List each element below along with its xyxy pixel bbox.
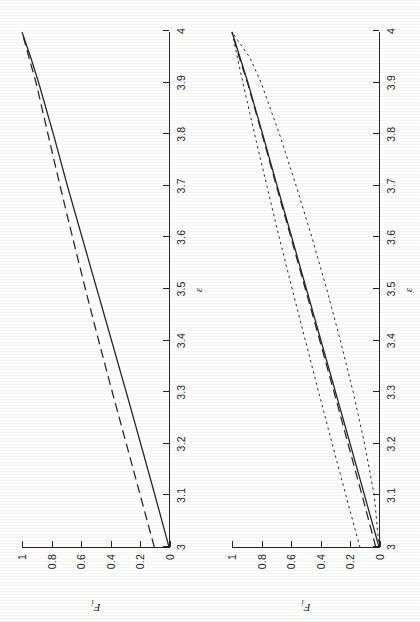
plot-curves-left [22, 32, 169, 547]
x-tick-label: 3.4 [385, 333, 397, 348]
y-tick-mark [350, 541, 351, 547]
x-tick-mark [163, 82, 169, 83]
y-tick-label: 0.4 [315, 554, 327, 569]
x-tick-mark [373, 340, 379, 341]
y-tick-label: 0 [164, 554, 176, 560]
y-tick-mark [81, 541, 82, 547]
x-tick-mark [373, 546, 379, 547]
x-tick-mark [163, 546, 169, 547]
x-tick-mark [163, 236, 169, 237]
panel-right: 33.13.23.33.43.53.63.73.83.9400.20.40.60… [210, 0, 420, 622]
x-tick-label: 3.2 [385, 436, 397, 451]
y-axis-title-left: Fi [92, 598, 101, 613]
plot-area-left: 33.13.23.33.43.53.63.73.83.9400.20.40.60… [22, 32, 170, 548]
x-tick-label: 3.8 [385, 127, 397, 142]
y-tick-label: 0.8 [256, 554, 268, 569]
x-tick-label: 3.5 [175, 281, 187, 296]
y-tick-mark [321, 541, 322, 547]
x-tick-mark [373, 133, 379, 134]
x-tick-label: 3 [175, 544, 187, 550]
x-tick-mark [163, 288, 169, 289]
y-tick-mark [262, 541, 263, 547]
x-tick-mark [373, 236, 379, 237]
x-tick-label: 3 [385, 544, 397, 550]
x-tick-label: 3.6 [175, 230, 187, 245]
y-tick-mark [22, 541, 23, 547]
y-tick-label: 0.2 [344, 554, 356, 569]
y-tick-label: 0.4 [105, 554, 117, 569]
x-tick-label: 3.3 [385, 385, 397, 400]
y-tick-label: 0.2 [134, 554, 146, 569]
curve-dashed [232, 32, 376, 547]
y-tick-mark [380, 541, 381, 547]
x-tick-mark [373, 443, 379, 444]
y-axis-title-sub-right: i [302, 598, 304, 607]
x-tick-mark [163, 340, 169, 341]
y-tick-label: 1 [226, 554, 238, 560]
y-tick-mark [52, 541, 53, 547]
x-axis-title-left: ε [192, 32, 204, 548]
curve-solid [22, 32, 169, 547]
x-tick-label: 3.4 [175, 333, 187, 348]
x-tick-label: 4 [385, 28, 397, 34]
x-tick-label: 3.9 [175, 75, 187, 90]
curve-dotted-upper [232, 32, 360, 547]
y-tick-label: 1 [16, 554, 28, 560]
x-tick-mark [163, 185, 169, 186]
x-tick-label: 3.1 [175, 488, 187, 503]
x-tick-mark [373, 82, 379, 83]
y-tick-label: 0 [374, 554, 386, 560]
plot-area-right: 33.13.23.33.43.53.63.73.83.9400.20.40.60… [232, 32, 380, 548]
y-tick-mark [291, 541, 292, 547]
x-tick-label: 3.2 [175, 436, 187, 451]
x-tick-label: 3.8 [175, 127, 187, 142]
x-tick-mark [163, 30, 169, 31]
x-tick-mark [163, 443, 169, 444]
x-tick-mark [163, 391, 169, 392]
y-axis-title-right: Fi [302, 598, 311, 613]
x-tick-label: 3.3 [175, 385, 187, 400]
x-tick-mark [373, 30, 379, 31]
y-tick-mark [140, 541, 141, 547]
y-tick-label: 0.8 [46, 554, 58, 569]
y-axis-title-sub-left: i [92, 598, 94, 607]
y-axis-title-base-right: F [304, 602, 311, 614]
x-tick-label: 3.7 [175, 178, 187, 193]
x-tick-mark [373, 494, 379, 495]
x-tick-label: 3.7 [385, 178, 397, 193]
x-axis-title-right: ε [402, 32, 414, 548]
x-tick-mark [163, 133, 169, 134]
x-tick-label: 3.6 [385, 230, 397, 245]
curve-dashed [22, 32, 154, 547]
x-tick-mark [373, 185, 379, 186]
y-tick-mark [170, 541, 171, 547]
y-axis-title-base-left: F [94, 602, 101, 614]
y-tick-mark [232, 541, 233, 547]
x-tick-label: 3.9 [385, 75, 397, 90]
panel-left: 33.13.23.33.43.53.63.73.83.9400.20.40.60… [0, 0, 210, 622]
x-tick-mark [373, 391, 379, 392]
y-tick-label: 0.6 [285, 554, 297, 569]
plot-curves-right [232, 32, 379, 547]
figure-root: 33.13.23.33.43.53.63.73.83.9400.20.40.60… [0, 0, 420, 622]
y-tick-label: 0.6 [75, 554, 87, 569]
x-tick-mark [373, 288, 379, 289]
x-tick-mark [163, 494, 169, 495]
x-tick-label: 4 [175, 28, 187, 34]
x-tick-label: 3.1 [385, 488, 397, 503]
x-tick-label: 3.5 [385, 281, 397, 296]
y-tick-mark [111, 541, 112, 547]
